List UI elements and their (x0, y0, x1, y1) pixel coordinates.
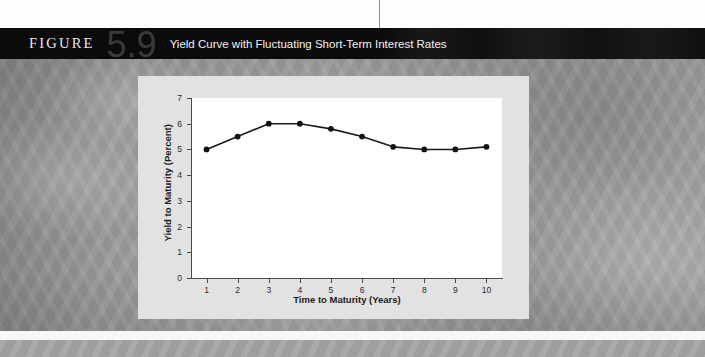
bottom-light-band (0, 331, 705, 340)
x-tick-mark (455, 279, 456, 283)
series-data-point (266, 121, 272, 127)
x-tick-label: 3 (259, 286, 279, 295)
x-tick-mark (207, 279, 208, 283)
x-tick-mark (486, 279, 487, 283)
figure-number: 5.9 (107, 28, 157, 59)
x-tick-mark (393, 279, 394, 283)
x-tick-label: 9 (445, 286, 465, 295)
x-tick-mark (424, 279, 425, 283)
x-tick-mark (362, 279, 363, 283)
bottom-texture-band (0, 340, 705, 357)
chart-panel: 01234567 12345678910 Time to Maturity (Y… (138, 76, 529, 319)
x-tick-mark (300, 279, 301, 283)
series-data-point (359, 134, 365, 140)
x-tick-label: 2 (228, 286, 248, 295)
figure-title: Yield Curve with Fluctuating Short-Term … (170, 39, 447, 51)
series-data-point (421, 147, 427, 153)
series-data-point (484, 144, 490, 150)
page-crop-mark (379, 0, 380, 28)
x-tick-mark (331, 279, 332, 283)
series-data-point (297, 121, 303, 127)
series-data-point (235, 134, 241, 140)
yield-curve-series (191, 98, 502, 278)
page-top-margin (0, 0, 705, 28)
series-data-point (452, 147, 458, 153)
bottom-band-texture (0, 340, 705, 357)
x-axis-title: Time to Maturity (Years) (191, 295, 503, 305)
y-axis-title: Yield to Maturity (Percent) (163, 93, 173, 273)
y-tick-label: 0 (162, 274, 182, 283)
series-data-point (328, 126, 334, 132)
figure-label: FIGURE (29, 36, 95, 51)
figure-page: FIGURE 5.9 Yield Curve with Fluctuating … (0, 0, 705, 357)
figure-header-banner: FIGURE 5.9 Yield Curve with Fluctuating … (0, 28, 705, 59)
banner-content: FIGURE 5.9 Yield Curve with Fluctuating … (0, 28, 705, 59)
x-tick-mark (269, 279, 270, 283)
x-tick-label: 8 (414, 286, 434, 295)
y-tick-mark (187, 278, 191, 279)
series-line (207, 124, 487, 150)
series-data-point (390, 144, 396, 150)
x-tick-label: 10 (476, 286, 496, 295)
x-tick-mark (238, 279, 239, 283)
x-tick-label: 1 (197, 286, 217, 295)
series-data-point (204, 147, 210, 153)
